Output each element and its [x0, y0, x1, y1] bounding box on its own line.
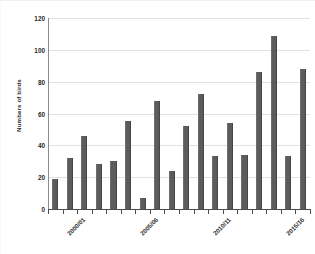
bar	[285, 156, 291, 209]
x-tick-label: 2010/11	[211, 216, 232, 237]
bar	[227, 123, 233, 209]
bar	[169, 171, 175, 209]
bar	[125, 121, 131, 209]
y-tick-label: 60	[38, 110, 45, 117]
bar	[271, 36, 277, 209]
bar	[81, 136, 87, 209]
y-tick-label: 40	[38, 142, 45, 149]
bar	[96, 164, 102, 209]
bar	[110, 161, 116, 209]
bar	[198, 94, 204, 209]
x-axis-tick-labels: 2000/012005/062010/112015/16	[1, 214, 315, 254]
bar	[154, 101, 160, 209]
bar	[300, 69, 306, 209]
y-tick-label: 120	[34, 15, 45, 22]
bar	[241, 155, 247, 209]
bars-layer	[48, 18, 310, 209]
bar-chart: Numbers of birds 020406080100120 2000/01…	[0, 0, 315, 254]
bar	[52, 179, 58, 209]
x-tick-label: 2005/06	[139, 216, 160, 237]
bar	[212, 156, 218, 209]
y-tick-label: 100	[34, 46, 45, 53]
y-tick-label: 20	[38, 174, 45, 181]
y-tick-label: 0	[41, 206, 45, 213]
y-tick-label: 80	[38, 78, 45, 85]
bar	[256, 72, 262, 209]
x-tick-label: 2015/16	[284, 216, 305, 237]
bar	[140, 198, 146, 209]
bar	[67, 158, 73, 209]
x-tick-label: 2000/01	[66, 216, 87, 237]
bar	[183, 126, 189, 209]
